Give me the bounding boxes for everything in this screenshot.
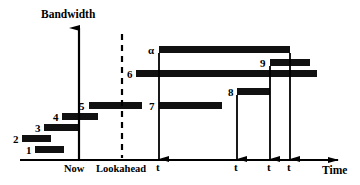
task-bar-1 — [35, 146, 64, 153]
task-bar-7 — [159, 102, 222, 109]
task-bar-3 — [44, 124, 79, 131]
deadline-glyph-8: t — [234, 162, 238, 173]
task-bar-label-4: 4 — [53, 112, 59, 123]
task-bar-9 — [270, 59, 310, 66]
deadline-glyph-alpha: t — [156, 162, 160, 173]
task-bar-alpha — [159, 46, 290, 53]
diagram-canvas: Bandwidth Time Now Lookahead 12345α6789 … — [0, 0, 360, 185]
task-bar-label-7: 7 — [149, 101, 155, 112]
deadline-glyph-9: t — [267, 162, 271, 173]
task-bar-label-9: 9 — [260, 58, 266, 69]
marker-label-now: Now — [64, 163, 84, 174]
deadline-glyph-6: t — [287, 162, 291, 173]
task-bar-label-1: 1 — [26, 145, 32, 156]
axes-and-arrows-overlay — [0, 0, 360, 185]
task-bar-label-6: 6 — [127, 69, 133, 80]
task-bar-6 — [136, 70, 317, 77]
task-bar-4 — [62, 113, 98, 120]
marker-label-lookahead: Lookahead — [96, 163, 146, 174]
task-bar-8 — [237, 88, 270, 95]
task-bar-2 — [22, 135, 51, 142]
task-bar-5 — [89, 102, 142, 109]
task-bar-label-2: 2 — [13, 134, 19, 145]
task-bar-label-5: 5 — [79, 101, 85, 112]
task-bar-label-alpha: α — [148, 45, 154, 56]
x-axis-title: Time — [322, 164, 347, 176]
y-axis-title: Bandwidth — [41, 8, 95, 20]
task-bar-label-3: 3 — [35, 123, 41, 134]
task-bar-label-8: 8 — [228, 87, 234, 98]
